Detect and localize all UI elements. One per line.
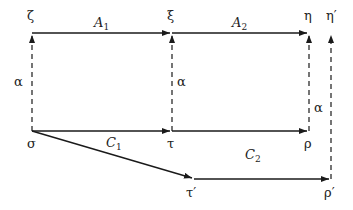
label-alpha-mid: α	[177, 74, 186, 89]
label-A2: A2	[231, 15, 247, 32]
label-alpha-left: α	[14, 74, 23, 89]
node-eta: η	[304, 8, 312, 23]
node-eta-prime: η′	[326, 8, 337, 23]
label-A1: A1	[93, 15, 109, 32]
node-sigma: σ	[27, 136, 36, 151]
node-tau-prime: τ′	[186, 185, 196, 200]
node-tau: τ	[167, 136, 174, 151]
commutative-diagram: ζ ξ η η′ σ τ ρ τ′ ρ′ A1 A2 C1 C2 α α α	[0, 0, 353, 210]
label-alpha-right: α	[314, 100, 323, 115]
label-C1: C1	[106, 135, 122, 152]
node-rho: ρ	[304, 136, 312, 151]
node-xi: ξ	[167, 8, 174, 23]
node-rho-prime: ρ′	[324, 185, 335, 200]
node-zeta: ζ	[27, 8, 34, 23]
diagram-svg: ζ ξ η η′ σ τ ρ τ′ ρ′ A1 A2 C1 C2 α α α	[0, 0, 353, 210]
label-C2: C2	[245, 147, 261, 164]
